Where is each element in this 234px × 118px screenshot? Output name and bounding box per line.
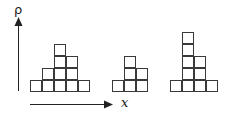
block-cell [78, 80, 90, 92]
block-cell [66, 80, 78, 92]
x-axis-arrowhead-icon [104, 100, 113, 109]
block-cell [54, 56, 66, 68]
block-cell [124, 68, 136, 80]
block-cell [54, 80, 66, 92]
block-cell [206, 80, 218, 92]
y-axis-label: ρ [14, 3, 22, 16]
block-cell [170, 80, 182, 92]
x-axis-label: x [121, 96, 128, 109]
block-cell [182, 32, 194, 44]
block-cell [66, 68, 78, 80]
block-cell [182, 44, 194, 56]
block-cell [182, 80, 194, 92]
block-cell [182, 68, 194, 80]
block-cell [194, 68, 206, 80]
block-cell [30, 80, 42, 92]
block-cell [124, 56, 136, 68]
block-cell [194, 80, 206, 92]
y-axis-arrowhead-icon [14, 17, 23, 26]
block-cell [136, 68, 148, 80]
block-cell [194, 56, 206, 68]
diagram-canvas: ρ x [0, 0, 234, 118]
block-cell [124, 80, 136, 92]
x-axis-line [30, 104, 106, 105]
block-cell [66, 56, 78, 68]
block-cell [182, 56, 194, 68]
y-axis-line [18, 24, 19, 91]
block-cell [136, 80, 148, 92]
block-cell [112, 80, 124, 92]
block-cell [54, 68, 66, 80]
block-cell [54, 44, 66, 56]
block-cell [42, 68, 54, 80]
block-cell [42, 80, 54, 92]
